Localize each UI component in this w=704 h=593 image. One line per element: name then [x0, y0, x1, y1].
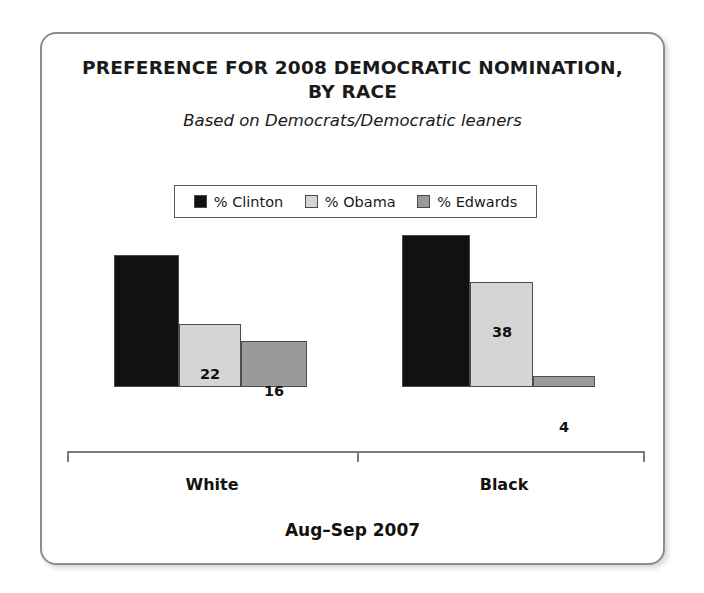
bar-value-black-edwards: 4: [534, 419, 594, 435]
x-axis-line: [67, 451, 645, 453]
bar-value-white-clinton: 46: [116, 297, 176, 313]
category-label-black: Black: [414, 475, 594, 494]
chart-card: PREFERENCE FOR 2008 DEMOCRATIC NOMINATIO…: [40, 32, 665, 565]
axis-tick-left: [67, 453, 69, 462]
bar-value-white-edwards: 16: [244, 383, 304, 399]
bar-white-clinton: [114, 255, 179, 387]
bar-value-black-clinton: 53: [406, 277, 466, 293]
bar-value-white-obama: 22: [180, 366, 240, 382]
bar-value-black-obama: 38: [472, 324, 532, 340]
bar-black-clinton: [402, 235, 470, 387]
chart-footer-period: Aug–Sep 2007: [42, 520, 663, 540]
axis-tick-middle: [357, 453, 359, 462]
bar-white-edwards: [241, 341, 307, 387]
plot-area: 46 22 16 53 38 4 White Black: [42, 34, 663, 563]
category-label-white: White: [122, 475, 302, 494]
axis-tick-right: [643, 453, 645, 462]
bar-black-edwards: [533, 376, 595, 387]
